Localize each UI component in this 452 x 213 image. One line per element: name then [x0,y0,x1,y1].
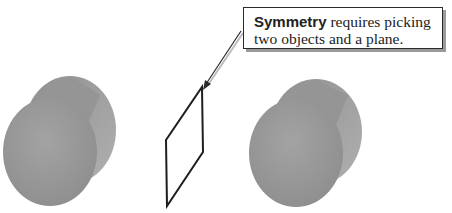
cylinder-front-face [249,99,343,207]
callout-keyword: Symmetry [254,13,327,30]
callout-text: requires picking [327,13,431,30]
callout-line-1: Symmetry requires picking [254,13,436,30]
callout-line-2: two objects and a plane. [254,30,436,47]
cylinder-front-face [3,98,97,206]
leader-arrow-icon [203,31,243,90]
right-cylinder[interactable] [249,79,362,207]
callout-box: Symmetry requires picking two objects an… [243,7,443,49]
symmetry-plane[interactable] [166,87,203,206]
left-cylinder[interactable] [3,76,116,206]
